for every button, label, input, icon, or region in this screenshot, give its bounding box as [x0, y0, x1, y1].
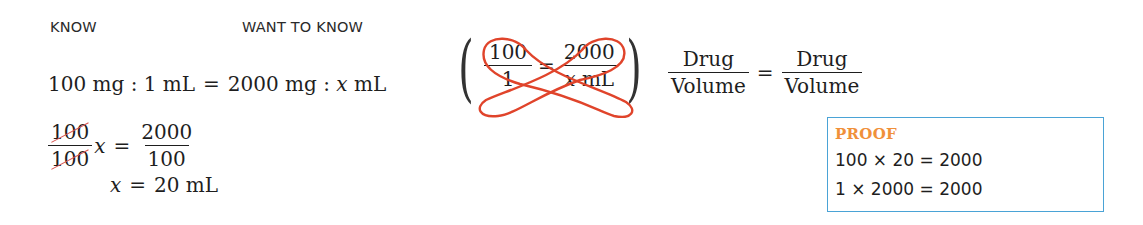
equals-sign: = [757, 61, 774, 85]
proof-line-2: 1 × 2000 = 2000 [835, 177, 982, 201]
known-ratio: 100 mg : 1 mL [48, 72, 195, 96]
cross-multiply-loops-icon [460, 28, 645, 118]
left-numerator: Drug [680, 47, 737, 72]
cross-multiply-diagram: ( ) 100 1 = 2000 x mL [460, 28, 645, 118]
right-denominator: Volume [782, 72, 863, 98]
drug-volume-formula: Drug Volume = Drug Volume [668, 47, 862, 98]
proof-box: PROOF 100 × 20 = 2000 1 × 2000 = 2000 [827, 117, 1104, 212]
equals-sign: = [129, 173, 146, 197]
rhs-numerator: 2000 [138, 120, 195, 145]
solve-step-equation: 100 100 x = 2000 100 [48, 120, 195, 171]
left-denominator: Volume [668, 72, 749, 98]
result-equation: x = 20 mL [110, 173, 218, 197]
result-value: 20 mL [154, 173, 218, 197]
proof-line-1: 100 × 20 = 2000 [835, 148, 982, 172]
unknown-ratio-prefix: 2000 mg : [228, 72, 336, 96]
want-to-know-label: WANT TO KNOW [242, 19, 363, 35]
cancel-fraction: 100 100 [48, 120, 92, 171]
unknown-ratio: 2000 mg : x mL [228, 72, 386, 96]
ratio-equation: 100 mg : 1 mL = 2000 mg : x mL [48, 72, 386, 96]
rhs-fraction: 2000 100 [138, 120, 195, 171]
unknown-variable: x [336, 72, 347, 96]
cancelled-denominator: 100 [51, 147, 89, 171]
unknown-unit: mL [348, 72, 387, 96]
rhs-denominator: 100 [145, 145, 189, 171]
cancelled-numerator: 100 [51, 120, 89, 144]
variable-x: x [94, 134, 105, 158]
right-numerator: Drug [793, 47, 850, 72]
proof-title: PROOF [835, 125, 897, 143]
variable-x: x [110, 173, 121, 197]
equals-sign: = [203, 72, 220, 96]
right-fraction: Drug Volume [782, 47, 863, 98]
left-fraction: Drug Volume [668, 47, 749, 98]
know-label: KNOW [50, 19, 97, 35]
equals-sign: = [113, 134, 130, 158]
